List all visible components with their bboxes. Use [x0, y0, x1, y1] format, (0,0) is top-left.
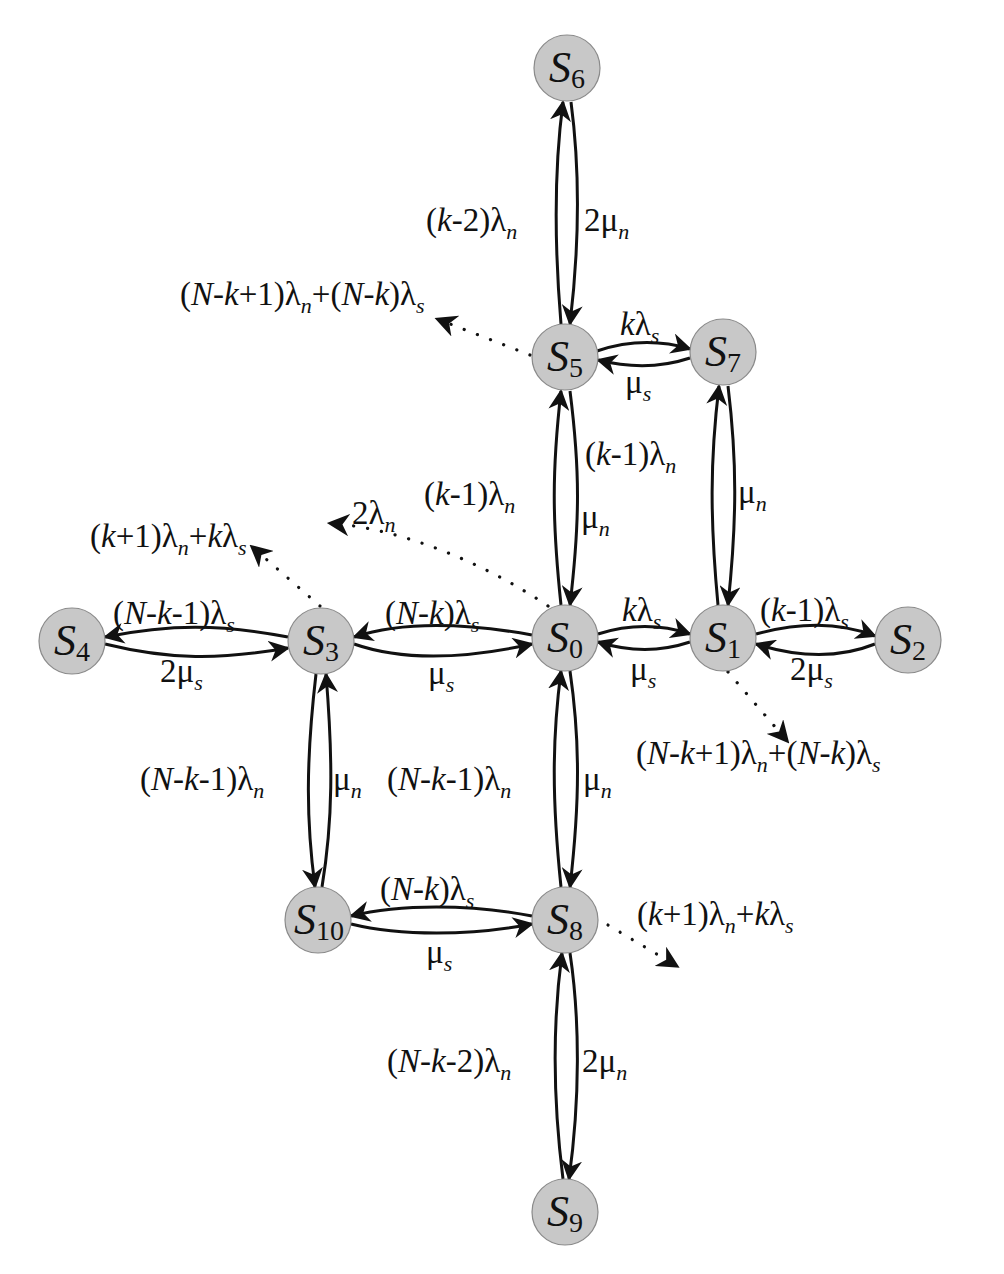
label-s0-s5-right: μn	[581, 499, 610, 541]
dotted-arrow-s5	[445, 322, 530, 355]
dotted-arrow-s0	[338, 524, 548, 606]
node-s7: S7	[690, 319, 756, 385]
edge-s0-s5	[554, 391, 577, 605]
edges	[105, 102, 875, 1179]
edge-s3-s10	[308, 674, 330, 887]
edge-s0-s1	[598, 627, 690, 650]
label-s0-s3-bottom: μs	[428, 655, 454, 697]
node-s1: S1	[690, 605, 756, 671]
node-s4: S4	[39, 608, 105, 674]
label-s3-out: (k+1)λn+kλs	[90, 518, 247, 560]
label-s3-s4-top: (N-k-1)λs	[113, 595, 235, 637]
node-s9: S9	[532, 1179, 598, 1245]
label-s0-s8-right: μn	[583, 761, 612, 803]
node-s0: S0	[532, 605, 598, 671]
label-s0-s1-bottom: μs	[630, 651, 656, 693]
dotted-arrow-s1	[728, 672, 782, 735]
node-s10: S10	[285, 887, 351, 953]
edge-s5-s6	[556, 102, 578, 324]
edge-s5-s7	[597, 342, 690, 365]
label-s6-s5-left: (k-2)λn	[426, 202, 517, 244]
edge-s1-s7	[712, 386, 735, 605]
label-s1-out: (N-k+1)λn+(N-k)λs	[636, 735, 881, 777]
node-s3: S3	[288, 608, 354, 674]
node-s6: S6	[534, 35, 600, 101]
node-s5: S5	[532, 324, 598, 390]
label-s1-s7-right: μn	[738, 474, 767, 516]
label-s6-s5-right: 2μn	[584, 202, 629, 244]
label-s0-s3-top: (N-k)λs	[385, 595, 479, 637]
edge-s3-s4	[105, 627, 288, 656]
label-s3-s10-right: μn	[333, 761, 362, 803]
dotted-arrow-s3	[258, 552, 320, 606]
node-s8: S8	[532, 887, 598, 953]
label-s3-s10-left: (N-k-1)λn	[140, 761, 264, 803]
label-s8-s10-bottom: μs	[426, 934, 452, 976]
label-s5-s7-bottom: μs	[625, 364, 651, 406]
label-s5-s7-top: kλs	[620, 306, 659, 348]
rate-labels: (k-2)λn 2μn (N-k+1)λn+(N-k)λs kλs μs (k-…	[90, 202, 881, 1085]
label-s0-s1-top: kλs	[622, 592, 661, 634]
edge-s8-s10	[351, 907, 532, 933]
label-s8-out: (k+1)λn+kλs	[637, 896, 794, 938]
label-s1-s7-left: (k-1)λn	[585, 436, 676, 478]
edge-s8-s9	[555, 953, 577, 1179]
node-s2: S2	[875, 607, 941, 673]
label-s8-s9-right: 2μn	[582, 1043, 627, 1085]
label-s3-s4-bottom: 2μs	[160, 653, 203, 695]
label-s0-s8-left: (N-k-1)λn	[387, 761, 511, 803]
label-s8-s10-top: (N-k)λs	[380, 871, 474, 913]
label-s0-s5-left: (k-1)λn	[424, 476, 515, 518]
label-s1-s2-bottom: 2μs	[790, 651, 833, 693]
edge-s0-s8	[554, 671, 577, 887]
label-s0-out: 2λn	[352, 495, 396, 537]
state-transition-diagram: S0 S1 S2 S3 S4 S5 S6 S7	[0, 0, 1004, 1274]
label-s5-out: (N-k+1)λn+(N-k)λs	[180, 276, 425, 318]
label-s8-s9-left: (N-k-2)λn	[387, 1043, 511, 1085]
label-s1-s2-top: (k-1)λs	[760, 592, 849, 634]
